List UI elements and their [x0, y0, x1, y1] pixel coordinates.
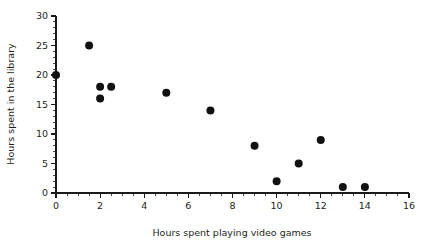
y-axis-tick-label: 25	[36, 40, 48, 51]
y-axis-tick-label: 30	[36, 10, 48, 21]
y-axis-tick-labels: 051015202530	[36, 10, 48, 198]
x-axis-tick-label: 0	[53, 200, 59, 211]
x-axis-tick-label: 16	[403, 200, 415, 211]
y-axis-group: 051015202530	[36, 10, 56, 198]
data-point	[273, 177, 281, 185]
data-point	[96, 83, 104, 91]
x-axis-tick-labels: 0246810121416	[53, 200, 415, 211]
data-point	[361, 183, 369, 191]
y-axis-major-ticks	[51, 16, 56, 193]
x-axis-tick-label: 12	[315, 200, 327, 211]
scatter-plot-figure: 051015202530 0246810121416 Hours spent p…	[0, 0, 429, 242]
data-point	[107, 83, 115, 91]
x-axis-tick-label: 8	[229, 200, 235, 211]
x-axis-tick-label: 2	[97, 200, 103, 211]
plot-svg: 051015202530 0246810121416 Hours spent p…	[0, 0, 429, 242]
y-axis-tick-label: 20	[36, 69, 48, 80]
data-point	[295, 160, 303, 168]
data-point-series	[52, 42, 369, 192]
data-point	[317, 136, 325, 144]
x-axis-major-ticks	[56, 193, 409, 198]
x-axis-tick-label: 14	[359, 200, 371, 211]
data-point	[251, 142, 259, 150]
y-axis-tick-label: 5	[42, 158, 48, 169]
x-axis-tick-label: 4	[141, 200, 147, 211]
data-point	[162, 89, 170, 97]
x-axis-tick-label: 6	[185, 200, 191, 211]
data-point	[339, 183, 347, 191]
y-axis-title: Hours spent in the library	[5, 43, 16, 165]
data-point	[52, 71, 60, 79]
data-point	[96, 95, 104, 103]
x-axis-tick-label: 10	[271, 200, 283, 211]
y-axis-tick-label: 10	[36, 128, 48, 139]
data-point	[85, 42, 93, 50]
data-point	[206, 106, 214, 114]
y-axis-tick-label: 0	[42, 187, 48, 198]
x-axis-title: Hours spent playing video games	[152, 227, 311, 238]
x-axis-group: 0246810121416	[53, 193, 415, 211]
y-axis-tick-label: 15	[36, 99, 48, 110]
